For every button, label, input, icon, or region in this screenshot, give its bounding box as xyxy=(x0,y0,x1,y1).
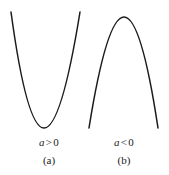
panel-b-condition: a<0 xyxy=(79,137,169,148)
parabola-opening-downward-curve xyxy=(89,17,158,128)
panel-a-condition-variable: a xyxy=(39,136,45,148)
panel-b-condition-variable: a xyxy=(114,136,120,148)
panel-b-condition-value: 0 xyxy=(128,136,134,148)
panel-a-condition-operator: > xyxy=(45,136,54,148)
parabola-figure: a>0 (a) a<0 (b) xyxy=(0,0,169,175)
panel-b-condition-operator: < xyxy=(120,136,129,148)
panel-a-condition-value: 0 xyxy=(53,136,59,148)
panel-b-tag: (b) xyxy=(79,155,169,166)
parabola-opening-upward-curve xyxy=(11,12,80,128)
panel-b-caption: a<0 (b) xyxy=(79,137,169,166)
